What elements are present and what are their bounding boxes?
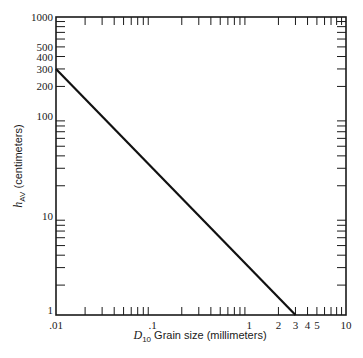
plot-frame bbox=[56, 17, 346, 315]
y-axis-text: (centimeters) bbox=[12, 124, 24, 191]
y-tick-labels: 1101002003004005001000 bbox=[31, 11, 54, 316]
y-tick-label: 1000 bbox=[31, 11, 54, 23]
y-axis-title: hAV (centimeters) bbox=[11, 124, 27, 207]
log-log-chart: .01.11234510 1101002003004005001000 D10 … bbox=[0, 0, 363, 358]
x-tick-label: 10 bbox=[341, 319, 353, 331]
data-line bbox=[56, 69, 296, 315]
y-tick-label: 500 bbox=[37, 41, 54, 53]
x-tick-label: 4 bbox=[305, 319, 311, 331]
x-tick-label: 3 bbox=[293, 319, 299, 331]
x-tick-label: 5 bbox=[314, 319, 320, 331]
x-axis-symbol: D bbox=[132, 328, 142, 342]
y-tick-label: 200 bbox=[37, 80, 54, 92]
y-tick-label: 1 bbox=[48, 304, 54, 316]
y-tick-label: 300 bbox=[37, 63, 54, 75]
x-axis-text: Grain size (millimeters) bbox=[151, 329, 267, 341]
axis-ticks bbox=[56, 17, 346, 315]
x-tick-label: .01 bbox=[49, 319, 63, 331]
x-tick-label: 2 bbox=[276, 319, 282, 331]
y-tick-label: 10 bbox=[42, 210, 54, 222]
x-axis-title: D10 Grain size (millimeters) bbox=[132, 328, 266, 344]
y-tick-label: 100 bbox=[37, 110, 54, 122]
